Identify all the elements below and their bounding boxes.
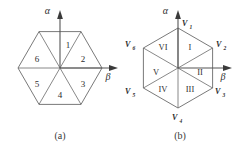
sector-label-1: 1 [66, 40, 71, 50]
hexagon-diagram-a: α β 1 2 3 4 5 6 [0, 0, 120, 140]
vertex-label-V3: V 3 [215, 87, 226, 98]
sector-label-4: 4 [58, 90, 63, 100]
sector-label-V: V [153, 67, 160, 77]
vertex-base-V5: V [125, 87, 131, 96]
vertex-base-V4: V [172, 113, 178, 122]
alpha-axis-a [57, 10, 63, 68]
alpha-axis-label-b: α [163, 5, 169, 16]
vertex-sub-V2: 2 [223, 45, 227, 51]
vertex-label-V4: V 4 [172, 113, 183, 124]
figure-b: α β I II III IV V VI V 1 V 2 V 3 V [120, 0, 240, 161]
vertex-sub-V5: 5 [133, 92, 136, 98]
sector-label-6: 6 [35, 54, 40, 64]
alpha-axis-b [175, 10, 181, 68]
alpha-axis-label-a: α [45, 5, 51, 16]
vertex-label-V1: V 1 [182, 19, 193, 30]
beta-axis-label-b: β [220, 71, 226, 82]
sector-label-3: 3 [81, 79, 86, 89]
sector-label-IV: IV [159, 84, 169, 94]
vertex-label-V5: V 5 [125, 87, 136, 98]
sector-label-5: 5 [35, 79, 40, 89]
beta-axis-label-a: β [105, 71, 111, 82]
hexagon-diagram-b: α β I II III IV V VI V 1 V 2 V 3 V [120, 0, 240, 140]
figure-b-caption: (b) [120, 130, 240, 141]
sector-label-2: 2 [81, 54, 86, 64]
sector-label-VI: VI [159, 42, 168, 52]
vertex-label-V2: V 2 [216, 40, 227, 51]
sector-label-III: III [186, 84, 195, 94]
vertex-base-V6: V [125, 40, 131, 49]
figure-b-drawing: α β I II III IV V VI V 1 V 2 V 3 V [120, 0, 240, 140]
vertex-base-V3: V [215, 87, 221, 96]
vertex-label-V6: V 6 [125, 40, 136, 51]
sector-label-II: II [197, 67, 203, 77]
vertex-sub-V4: 4 [179, 118, 183, 124]
vertex-base-V1: V [182, 19, 188, 28]
sector-label-I: I [189, 42, 192, 52]
vertex-sub-V6: 6 [133, 45, 136, 51]
vertex-sub-V1: 1 [190, 24, 193, 30]
vertex-base-V2: V [216, 40, 222, 49]
vertex-sub-V3: 3 [222, 92, 226, 98]
figure-a: α β 1 2 3 4 5 6 (a) [0, 0, 120, 161]
figure-a-caption: (a) [0, 130, 120, 141]
figure-a-drawing: α β 1 2 3 4 5 6 [0, 0, 120, 140]
